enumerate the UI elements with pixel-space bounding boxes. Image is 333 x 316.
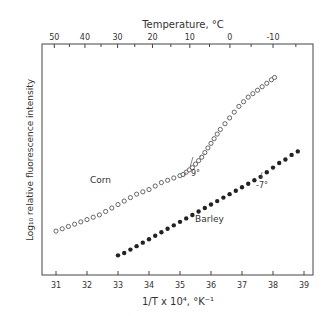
barley-label: Barley: [195, 214, 224, 224]
temperature-tick-label: 20: [147, 33, 157, 42]
x-tick-label: 39: [299, 281, 309, 290]
barley-point: [240, 185, 244, 189]
corn-point: [206, 146, 210, 150]
temperature-axis-label: Temperature, °C: [141, 19, 224, 30]
barley-point: [122, 251, 126, 255]
corn-point: [218, 127, 222, 131]
temperature-tick-label: 30: [113, 33, 123, 42]
corn-break-text: 9°: [191, 169, 200, 178]
barley-break-text: -7°: [256, 181, 268, 190]
barley-point: [277, 161, 281, 165]
barley-point: [258, 175, 262, 179]
corn-point: [215, 132, 219, 136]
temperature-tick-label: 40: [80, 33, 90, 42]
barley-point: [128, 247, 132, 251]
corn-point: [223, 122, 227, 126]
barley-point: [283, 157, 287, 161]
corn-point: [141, 190, 145, 194]
barley-point: [289, 153, 293, 157]
x-tick-label: 37: [237, 281, 247, 290]
barley-point: [159, 230, 163, 234]
corn-series: [54, 75, 277, 233]
corn-point: [97, 213, 101, 217]
corn-point: [255, 88, 259, 92]
x-axis-label: 1/T x 10⁴, °K⁻¹: [142, 296, 214, 307]
barley-point: [190, 213, 194, 217]
x-tick-label: 34: [144, 281, 154, 290]
temperature-tick-label: 10: [185, 33, 195, 42]
barley-point: [196, 209, 200, 213]
barley-point: [147, 237, 151, 241]
barley-point: [178, 220, 182, 224]
corn-point: [104, 209, 108, 213]
corn-point: [193, 162, 197, 166]
corn-point: [212, 137, 216, 141]
corn-point: [272, 75, 276, 79]
barley-point: [172, 223, 176, 227]
barley-point: [271, 165, 275, 169]
corn-point: [228, 116, 232, 120]
corn-point: [197, 159, 201, 163]
barley-point: [184, 216, 188, 220]
corn-point: [135, 192, 139, 196]
barley-series: [116, 149, 300, 257]
barley-point: [215, 199, 219, 203]
corn-point: [60, 227, 64, 231]
corn-point: [79, 220, 83, 224]
fluorescence-chart: 50403020100-10 Temperature, °C 313233343…: [0, 0, 333, 316]
barley-point: [134, 244, 138, 248]
corn-point: [166, 178, 170, 182]
corn-point: [128, 196, 132, 200]
barley-point: [221, 195, 225, 199]
corn-point: [251, 92, 255, 96]
corn-point: [85, 217, 89, 221]
barley-break-annotation: -7°: [256, 172, 268, 190]
barley-point: [227, 192, 231, 196]
barley-point: [265, 170, 269, 174]
corn-point: [232, 110, 236, 114]
corn-point: [147, 187, 151, 191]
barley-point: [209, 202, 213, 206]
corn-point: [73, 222, 77, 226]
y-axis-label: Log₁₀ relative fluorescence intensity: [25, 78, 35, 241]
temperature-tick-label: 50: [49, 33, 59, 42]
barley-point: [153, 234, 157, 238]
barley-point: [234, 188, 238, 192]
temperature-tick-label: -10: [266, 33, 279, 42]
barley-point: [246, 182, 250, 186]
x-tick-label: 38: [268, 281, 278, 290]
barley-point: [296, 149, 300, 153]
corn-point: [116, 202, 120, 206]
barley-point: [203, 206, 207, 210]
x-tick-label: 35: [175, 281, 185, 290]
corn-point: [110, 206, 114, 210]
corn-point: [91, 215, 95, 219]
corn-point: [66, 224, 70, 228]
barley-point: [165, 227, 169, 231]
temperature-tick-label: 0: [227, 33, 232, 42]
x-tick-label: 36: [206, 281, 216, 290]
corn-label: Corn: [90, 175, 111, 185]
corn-point: [241, 100, 245, 104]
corn-point: [172, 176, 176, 180]
corn-point: [54, 229, 58, 233]
x-tick-label: 32: [82, 281, 92, 290]
corn-point: [246, 95, 250, 99]
x-tick-label: 33: [113, 281, 123, 290]
temperature-axis: 50403020100-10: [49, 33, 296, 48]
corn-point: [153, 184, 157, 188]
corn-point: [159, 181, 163, 185]
barley-point: [116, 253, 120, 257]
x-tick-label: 31: [51, 281, 61, 290]
barley-point: [141, 240, 145, 244]
corn-point: [265, 81, 269, 85]
corn-point: [209, 141, 213, 145]
corn-point: [122, 199, 126, 203]
corn-point: [237, 104, 241, 108]
corn-point: [260, 85, 264, 89]
inverse-temperature-axis: 313233343536373839: [51, 271, 309, 290]
